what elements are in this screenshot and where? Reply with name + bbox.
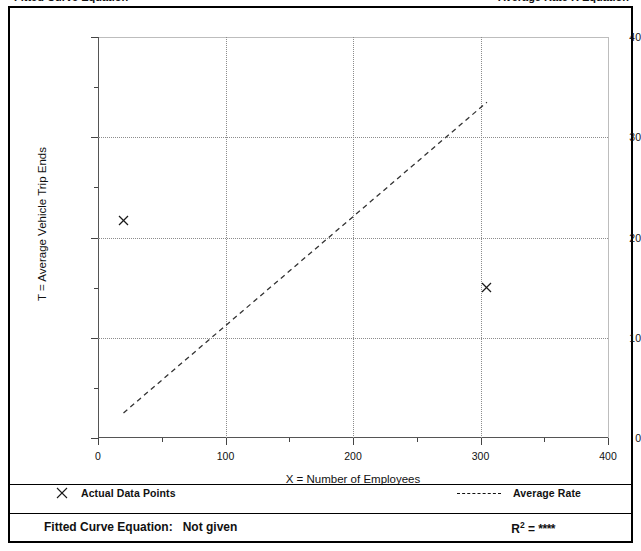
- legend-label-average-rate: Average Rate: [513, 487, 581, 499]
- chart-footer: Fitted Curve Equation: Not given R2 = **…: [0, 520, 641, 546]
- ytick-5: [94, 388, 98, 389]
- data-point-marker: [118, 215, 129, 226]
- ytick-0: [91, 438, 98, 439]
- ylabel-10: 10: [555, 332, 641, 344]
- legend-bottom-divider: [10, 513, 631, 514]
- xlabel-100: 100: [196, 450, 256, 462]
- ytick-25: [94, 187, 98, 188]
- xtick-0: [98, 438, 99, 445]
- ylabel-0: 0: [555, 432, 641, 444]
- chart-legend: Actual Data Points Average Rate: [0, 487, 641, 513]
- xtick-350: [544, 438, 545, 442]
- r-squared-equals: =: [528, 522, 535, 536]
- xtick-300: [481, 438, 482, 445]
- plot-region: 40 30 20 10 0 0 100 200 300 400 X = Numb…: [0, 0, 641, 470]
- xtick-400: [608, 438, 609, 445]
- r-squared-stars: ****: [538, 522, 555, 536]
- legend-top-divider: [10, 484, 631, 485]
- ytick-35: [94, 87, 98, 88]
- legend-label-data-points: Actual Data Points: [81, 487, 176, 499]
- chart-page: Fitted Curve Equation Average Rate R Equ…: [0, 0, 641, 551]
- ytick-20: [91, 238, 98, 239]
- gridline-y-10: [98, 338, 608, 339]
- ytick-30: [91, 137, 98, 138]
- gridline-y-30: [98, 137, 608, 138]
- r-squared-value: R2 = ****: [511, 520, 555, 536]
- xtick-250: [417, 438, 418, 442]
- xtick-200: [353, 438, 354, 445]
- fitted-curve-equation: Fitted Curve Equation: Not given: [44, 520, 237, 534]
- ylabel-30: 30: [555, 131, 641, 143]
- ylabel-20: 20: [555, 232, 641, 244]
- xlabel-200: 200: [323, 450, 383, 462]
- xlabel-0: 0: [68, 450, 128, 462]
- ytick-10: [91, 338, 98, 339]
- y-axis-title: T = Average Vehicle Trip Ends: [36, 74, 48, 374]
- r-squared-label: R: [511, 522, 520, 536]
- legend-item-average-rate: Average Rate: [457, 487, 581, 499]
- fitted-curve-equation-value: Not given: [183, 520, 238, 534]
- x-marker-icon: [481, 282, 492, 293]
- xtick-50: [162, 438, 163, 442]
- ytick-15: [94, 288, 98, 289]
- r-squared-exponent: 2: [520, 520, 525, 530]
- ylabel-40: 40: [555, 31, 641, 43]
- data-point-marker: [481, 282, 492, 293]
- ytick-40: [91, 37, 98, 38]
- x-marker-icon: [118, 215, 129, 226]
- legend-item-data-points: Actual Data Points: [56, 487, 176, 499]
- xlabel-400: 400: [578, 450, 638, 462]
- dashed-line-icon: [457, 493, 501, 494]
- x-marker-icon: [56, 487, 68, 499]
- xtick-150: [289, 438, 290, 442]
- xtick-100: [226, 438, 227, 445]
- xlabel-300: 300: [451, 450, 511, 462]
- fitted-curve-equation-label: Fitted Curve Equation:: [44, 520, 173, 534]
- gridline-y-20: [98, 238, 608, 239]
